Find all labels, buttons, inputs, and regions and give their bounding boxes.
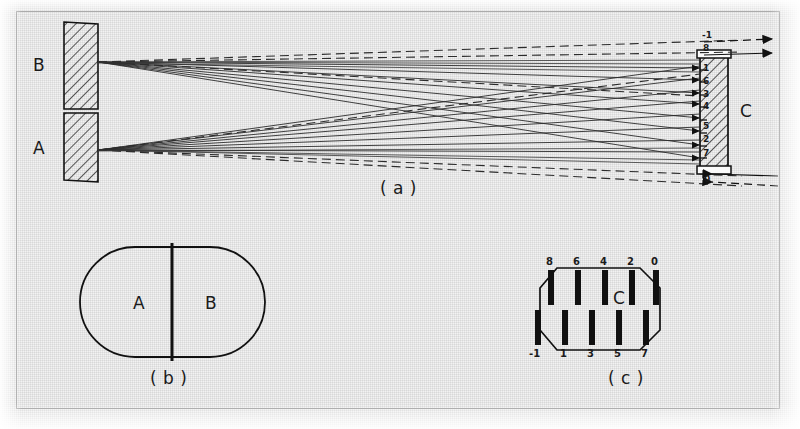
panel-b-half-b-label: B — [205, 293, 217, 313]
panel-b-half-a-label: A — [133, 293, 145, 313]
panel-b-mirror-face — [80, 243, 265, 361]
mirror-a-block — [64, 113, 98, 182]
mirror-b-block — [64, 22, 98, 109]
detector-index-1: 1 — [703, 63, 709, 73]
detector-index-outside-top: -1 — [702, 30, 712, 40]
panel-c-bottom-label-1: 1 — [560, 348, 567, 359]
panel-c-top-label-8: 8 — [546, 256, 553, 267]
detector-index-2: 2 — [703, 134, 709, 144]
panel-a-detector-c-label: C — [740, 101, 752, 121]
panel-c-top-label-4: 4 — [600, 256, 607, 267]
panel-c-strips-top — [548, 270, 659, 305]
detector-index-3: 3 — [703, 89, 709, 99]
panel-c-bottom-label-minus1: -1 — [529, 348, 540, 359]
escape-arrows-bottom — [712, 174, 778, 186]
panel-c-top-label-2: 2 — [627, 256, 634, 267]
panel-c-outline — [540, 268, 660, 350]
panel-c-center-label: C — [613, 288, 625, 308]
detector-index-4: 4 — [703, 101, 709, 111]
panel-c-top-label-6: 6 — [573, 256, 580, 267]
detector-index-7: 7 — [703, 148, 709, 158]
panel-a-caption: ( a ) — [380, 178, 417, 198]
detector-index-8: 8 — [703, 43, 709, 53]
panel-c-bottom-label-5: 5 — [614, 348, 621, 359]
figure-page: B A C ( a ) -1 8 1 6 3 4 5 2 7 0 A B ( b… — [0, 0, 800, 429]
detector-index-5: 5 — [703, 121, 709, 131]
panel-c-bottom-label-3: 3 — [587, 348, 594, 359]
panel-a-mirror-a-label: A — [33, 138, 45, 158]
panel-b-caption: ( b ) — [150, 368, 187, 388]
ray-bundle-a-dense — [98, 148, 700, 164]
ray-fan-from-b — [98, 62, 700, 158]
panel-c-caption: ( c ) — [608, 368, 644, 388]
panel-a-mirror-b-label: B — [33, 55, 45, 75]
diagram-canvas — [0, 0, 800, 429]
panel-c-bottom-label-7: 7 — [641, 348, 648, 359]
detector-index-6: 6 — [703, 76, 709, 86]
panel-c-strips-bottom — [535, 310, 649, 345]
panel-c-top-label-0: 0 — [651, 256, 658, 267]
ray-arrowheads-on-detector — [692, 65, 700, 162]
detector-index-outside-bottom: 0 — [704, 174, 710, 184]
